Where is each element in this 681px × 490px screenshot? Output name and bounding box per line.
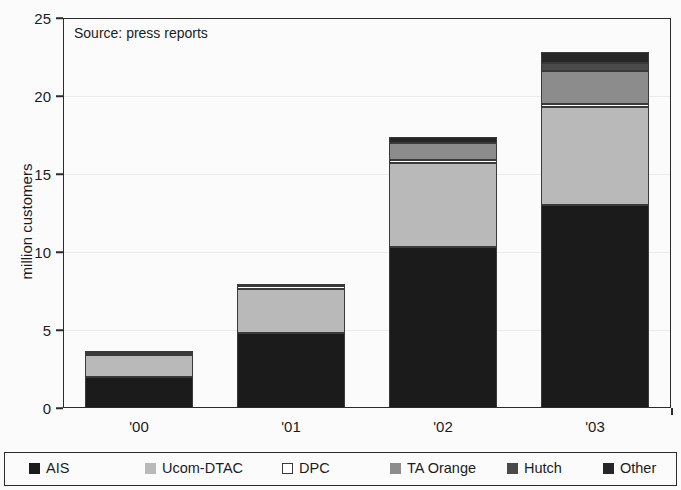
bar-segment-dpc [85, 353, 193, 355]
chart-root: million customers 0510152025 Source: pre… [0, 0, 681, 490]
x-tick-label: '03 [585, 418, 605, 435]
y-tick-label: 25 [34, 11, 51, 26]
bar-segment-other [85, 351, 193, 353]
legend-label: Hutch [524, 460, 562, 476]
x-tick-label: '01 [281, 418, 301, 435]
y-tick-mark [56, 173, 63, 175]
y-tick-label: 5 [43, 323, 51, 338]
legend-label: DPC [299, 460, 330, 476]
bar-01 [237, 285, 345, 408]
bar-segment-ucom-dtac [541, 107, 649, 205]
bar-segment-other [237, 284, 345, 286]
legend-swatch-icon [507, 463, 518, 474]
bar-segment-other [541, 52, 649, 63]
x-tick-label: '00 [129, 418, 149, 435]
x-tick-label: '02 [433, 418, 453, 435]
legend-item-ta-orange[interactable]: TA Orange [390, 460, 476, 476]
bar-segment-ta-orange [541, 71, 649, 104]
y-tick-label: 0 [43, 401, 51, 416]
bar-segment-ta-orange [389, 143, 497, 160]
y-tick-mark [56, 407, 63, 409]
bar-segment-other [389, 137, 497, 143]
bar-segment-hutch [541, 63, 649, 71]
bar-segment-ais [541, 205, 649, 408]
bar-segment-ucom-dtac [389, 163, 497, 247]
legend-label: AIS [46, 460, 69, 476]
y-axis: 0510152025 [0, 0, 63, 426]
legend-item-other[interactable]: Other [603, 460, 656, 476]
y-tick-label: 15 [34, 167, 51, 182]
legend-swatch-icon [603, 463, 614, 474]
legend-label: TA Orange [407, 460, 476, 476]
bar-segment-ucom-dtac [237, 289, 345, 333]
bar-02 [389, 137, 497, 408]
legend-swatch-icon [29, 463, 40, 474]
legend-item-dpc[interactable]: DPC [282, 460, 330, 476]
bar-segment-dpc [389, 160, 497, 163]
y-tick-mark [56, 251, 63, 253]
plot-area [63, 18, 671, 408]
bar-00 [85, 352, 193, 408]
bar-segment-ais [85, 377, 193, 408]
bar-segment-dpc [541, 104, 649, 107]
y-tick-label: 20 [34, 89, 51, 104]
source-note: Source: press reports [74, 25, 208, 41]
legend-swatch-icon [145, 463, 156, 474]
bar-segment-ais [237, 333, 345, 408]
chart-legend: AISUcom-DTACDPCTA OrangeHutchOther [4, 452, 677, 486]
legend-item-ucom-dtac[interactable]: Ucom-DTAC [145, 460, 243, 476]
y-tick-label: 10 [34, 245, 51, 260]
bar-03 [541, 52, 649, 408]
legend-label: Ucom-DTAC [162, 460, 243, 476]
x-axis-end-tick [671, 408, 673, 415]
legend-swatch-icon [390, 463, 401, 474]
y-tick-mark [56, 95, 63, 97]
bar-segment-ais [389, 247, 497, 408]
bar-segment-dpc [237, 286, 345, 289]
legend-item-hutch[interactable]: Hutch [507, 460, 562, 476]
bar-segment-ucom-dtac [85, 355, 193, 377]
y-tick-mark [56, 329, 63, 331]
legend-swatch-icon [282, 463, 293, 474]
y-tick-mark [56, 17, 63, 19]
legend-label: Other [620, 460, 656, 476]
legend-item-ais[interactable]: AIS [29, 460, 69, 476]
